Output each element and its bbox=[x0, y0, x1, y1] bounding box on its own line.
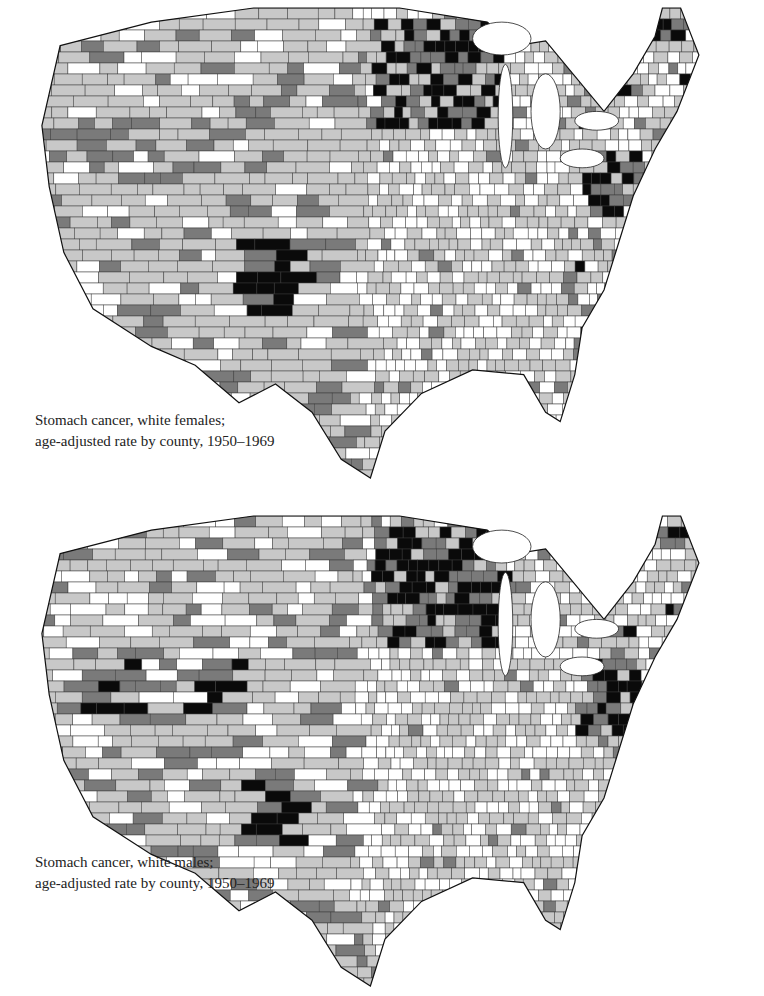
caption-subtitle: age-adjusted rate by county, 1950–1969 bbox=[35, 873, 274, 894]
map-caption-males: Stomach cancer, white males; age-adjuste… bbox=[35, 852, 274, 894]
map-panel-males: Stomach cancer, white males; age-adjuste… bbox=[0, 490, 764, 996]
caption-title: Stomach cancer, white females; bbox=[35, 410, 274, 431]
us-county-map-males bbox=[0, 490, 764, 996]
map-panel-females: Stomach cancer, white females; age-adjus… bbox=[0, 0, 764, 490]
caption-title: Stomach cancer, white males; bbox=[35, 852, 274, 873]
map-caption-females: Stomach cancer, white females; age-adjus… bbox=[35, 410, 274, 452]
caption-subtitle: age-adjusted rate by county, 1950–1969 bbox=[35, 431, 274, 452]
